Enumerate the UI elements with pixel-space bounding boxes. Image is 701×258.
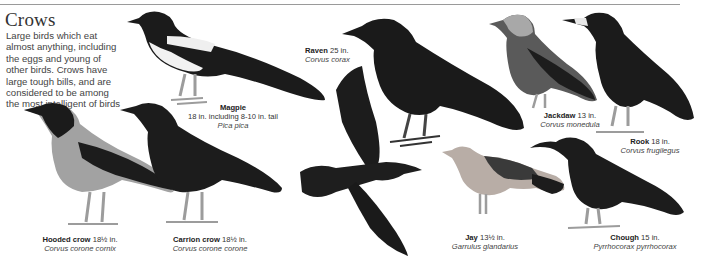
bird-latin: Garrulus glandarius (452, 242, 518, 251)
bird-size: 25 in. (330, 46, 349, 55)
jay-caption: Jay 13½ in. Garrulus glandarius (440, 233, 530, 251)
bird-latin: Corvus corone corone (173, 244, 248, 253)
rook-illustration (560, 8, 700, 138)
bird-size: 18½ in. (222, 235, 247, 244)
bird-size: 18½ in. (93, 235, 118, 244)
intro-text: Large birds which eat almost anything, i… (6, 30, 124, 110)
bird-latin: Pyrrhocorax pyrrhocorax (593, 242, 676, 251)
bird-size: 13½ in. (480, 233, 505, 242)
raven-flying-illustration (296, 62, 436, 258)
chough-caption: Chough 15 in. Pyrrhocorax pyrrhocorax (580, 233, 690, 251)
hooded-crow-caption: Hooded crow 18½ in. Corvus corone cornix (20, 235, 140, 253)
carrion-crow-illustration (118, 100, 288, 230)
bird-name: Chough (610, 233, 639, 242)
carrion-crow-caption: Carrion crow 18½ in. Corvus corone coron… (150, 235, 270, 253)
bird-name: Jay (465, 233, 478, 242)
chough-illustration (528, 132, 688, 232)
bird-name: Hooded crow (42, 235, 90, 244)
bird-size: 15 in. (641, 233, 660, 242)
page-title: Crows (5, 9, 56, 31)
bird-name: Raven (305, 46, 328, 55)
bird-name: Carrion crow (173, 235, 220, 244)
top-rule (0, 4, 680, 5)
bird-latin: Corvus corone cornix (44, 244, 116, 253)
